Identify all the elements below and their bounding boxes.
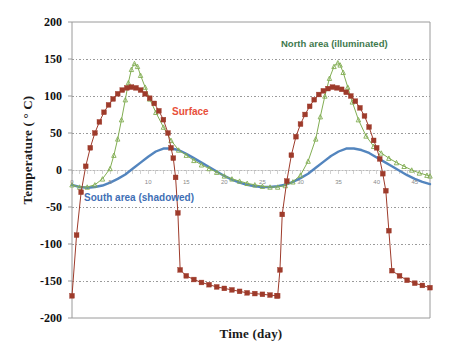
series-label-south-area: South area (shadowed) — [84, 192, 194, 203]
x-axis-tick-label: 0 — [62, 179, 82, 185]
x-axis-tick-label: 40 — [367, 179, 387, 185]
y-axis-title: Temperature ( ° C) — [20, 30, 36, 270]
y-axis-tick-label: -200 — [24, 313, 62, 323]
x-axis-tick-label: 35 — [329, 179, 349, 185]
y-axis-tick-label: -50 — [24, 202, 62, 212]
x-axis-tick-label: 5 — [100, 179, 120, 185]
series-label-north-area: North area (illuminated) — [281, 38, 388, 49]
plot-area — [0, 0, 449, 353]
x-axis-tick-label: 20 — [214, 179, 234, 185]
y-axis-tick-label: 150 — [24, 54, 62, 64]
x-axis-tick-label: 15 — [176, 179, 196, 185]
y-axis-tick-label: 100 — [24, 91, 62, 101]
x-axis-tick-label: 10 — [138, 179, 158, 185]
y-axis-tick-label: 50 — [24, 128, 62, 138]
y-axis-tick-label: 0 — [24, 165, 62, 175]
series-label-surface: Surface — [172, 106, 209, 117]
x-axis-tick-label: 30 — [291, 179, 311, 185]
y-axis-tick-label: -100 — [24, 239, 62, 249]
x-axis-title: Time (day) — [72, 326, 430, 342]
x-axis-tick-label: 25 — [252, 179, 272, 185]
x-axis-tick-label: 45 — [405, 179, 425, 185]
y-axis-tick-label: -150 — [24, 276, 62, 286]
y-axis-tick-label: 200 — [24, 17, 62, 27]
temperature-time-chart: Temperature ( ° C) Time (day) 2001501005… — [0, 0, 449, 353]
